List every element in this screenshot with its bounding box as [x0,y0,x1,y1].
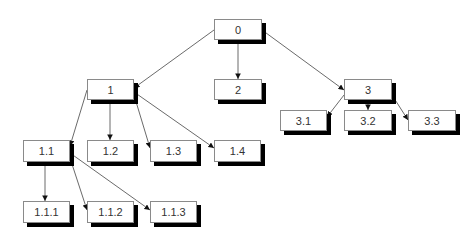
node-0: 0 [214,19,262,40]
node-3.1: 3.1 [280,110,327,131]
node-label: 3.3 [424,115,439,127]
node-label: 1.1.3 [161,206,185,218]
node-label: 1 [107,84,113,96]
node-label: 1.2 [103,145,118,157]
node-1.1.1: 1.1.1 [23,201,70,223]
node-label: 1.1 [39,145,54,157]
node-label: 3.2 [360,115,375,127]
node-1: 1 [87,79,134,100]
node-1.2: 1.2 [87,140,134,162]
node-1.1: 1.1 [23,140,70,162]
node-2: 2 [214,79,262,100]
edge-1.1-to-1.1.2 [70,158,87,210]
edge-0-to-1 [134,30,214,88]
edge-1-to-1.1 [70,90,87,146]
node-label: 3.1 [296,115,311,127]
node-label: 1.1.1 [34,206,58,218]
node-label: 0 [235,24,241,36]
edge-3-to-3.3 [392,95,408,120]
node-3: 3 [344,79,392,100]
node-label: 1.1.2 [98,206,122,218]
node-1.1.3: 1.1.3 [150,201,197,223]
node-label: 1.4 [230,145,245,157]
node-1.3: 1.3 [150,140,197,162]
node-3.2: 3.2 [344,110,392,131]
edge-3-to-3.1 [327,95,344,117]
node-1.1.2: 1.1.2 [87,201,134,223]
node-label: 1.3 [166,145,181,157]
edge-0-to-3 [262,30,344,90]
edge-1-to-1.3 [134,95,150,148]
node-label: 2 [235,84,241,96]
node-1.4: 1.4 [214,140,261,162]
node-label: 3 [365,84,371,96]
node-3.3: 3.3 [408,110,456,131]
